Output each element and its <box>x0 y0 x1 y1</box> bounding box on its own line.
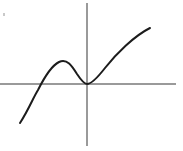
plot-canvas <box>0 0 183 151</box>
scan-speck-artifact <box>3 13 5 16</box>
plot-background <box>0 0 183 151</box>
graph-figure <box>0 0 183 151</box>
